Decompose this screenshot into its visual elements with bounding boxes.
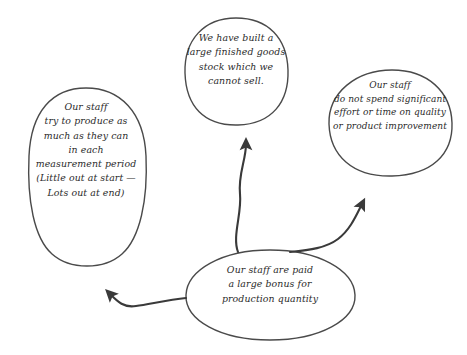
node-shape-bonus-cause[interactable] — [186, 250, 355, 340]
arrow-bonus-to-overproduce — [110, 294, 186, 306]
diagram-canvas: Our staff try to produce as much as they… — [0, 0, 467, 355]
arrow-bonus-to-finished-goods — [236, 144, 246, 252]
node-shape-quality-neglect[interactable] — [329, 70, 452, 176]
arrow-bonus-to-quality-neglect — [290, 204, 362, 252]
diagram-graphics — [0, 0, 467, 355]
node-shape-incentive-overproduce[interactable] — [29, 88, 147, 266]
node-shape-finished-goods[interactable] — [185, 18, 288, 125]
